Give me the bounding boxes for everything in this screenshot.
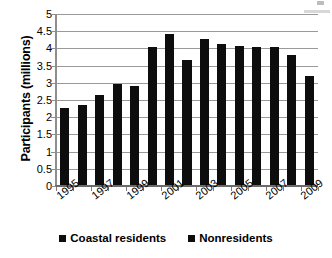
- y-axis-tick-mark: [51, 83, 56, 84]
- legend-swatch-icon: [59, 235, 66, 242]
- bar: [95, 95, 104, 186]
- y-axis-tick-mark: [51, 134, 56, 135]
- bar: [113, 84, 122, 186]
- y-axis-tick-label: 5: [26, 9, 52, 20]
- y-axis-tick-mark: [51, 169, 56, 170]
- bar: [165, 34, 174, 186]
- bar: [130, 86, 139, 186]
- y-axis-tick-mark: [51, 31, 56, 32]
- y-axis-tick-label: 3.5: [26, 60, 52, 71]
- x-axis-tick-labels: 19951997199920012003200520072009: [56, 192, 318, 226]
- y-axis-tick-mark: [51, 48, 56, 49]
- plot-area: [56, 14, 318, 186]
- y-axis-tick-label: 1: [26, 146, 52, 157]
- bar-chart: Participants (millions) 00.511.522.533.5…: [0, 0, 332, 258]
- legend-swatch-icon: [188, 235, 195, 242]
- y-axis-tick-mark: [51, 152, 56, 153]
- y-axis-tick-mark: [51, 14, 56, 15]
- legend-label: Nonresidents: [199, 232, 273, 244]
- y-axis-tick-label: 4: [26, 43, 52, 54]
- bar: [182, 60, 191, 186]
- corner-artifact-dot: [317, 1, 324, 5]
- bar: [270, 47, 279, 186]
- bar: [200, 39, 209, 186]
- legend-item[interactable]: Coastal residents: [59, 232, 166, 244]
- y-axis-tick-label: 4.5: [26, 26, 52, 37]
- legend-item[interactable]: Nonresidents: [188, 232, 273, 244]
- bar: [287, 55, 296, 186]
- bar: [78, 105, 87, 186]
- bar: [252, 47, 261, 186]
- y-axis-tick-labels: 00.511.522.533.544.55: [22, 14, 52, 186]
- y-axis-tick-label: 3: [26, 77, 52, 88]
- bar: [60, 108, 69, 186]
- gridline: [56, 31, 318, 32]
- chart-legend: Coastal residentsNonresidents: [0, 232, 332, 244]
- y-axis-tick-mark: [51, 100, 56, 101]
- bar: [305, 76, 314, 186]
- gridline: [56, 14, 318, 15]
- y-axis-tick-mark: [51, 117, 56, 118]
- bar: [148, 47, 157, 186]
- y-axis-tick-mark: [51, 66, 56, 67]
- y-axis-tick-label: 1.5: [26, 129, 52, 140]
- bar: [235, 46, 244, 186]
- y-axis-tick-label: 0.5: [26, 163, 52, 174]
- y-axis-tick-label: 0: [26, 181, 52, 192]
- corner-artifact: [304, 10, 330, 13]
- y-axis-tick-label: 2.5: [26, 95, 52, 106]
- legend-label: Coastal residents: [70, 232, 166, 244]
- bar: [217, 44, 226, 186]
- y-axis-tick-label: 2: [26, 112, 52, 123]
